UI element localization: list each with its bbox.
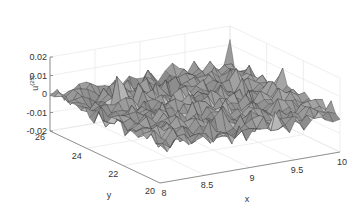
x-tick-label: 8: [161, 188, 166, 198]
surface-figure: -0.02-0.0100.010.0288.599.51020222426 u(…: [0, 0, 359, 212]
z-tick-label: 0: [42, 89, 47, 99]
surface-mesh: [50, 39, 340, 151]
x-tick-label: 10: [337, 157, 347, 167]
y-tick-label: 22: [108, 169, 118, 179]
y-tick-label: 20: [145, 186, 155, 196]
x-tick-label: 8.5: [201, 180, 214, 190]
z-tick-label: -0.01: [26, 108, 47, 118]
surface-plot: -0.02-0.0100.010.0288.599.51020222426 u(…: [0, 0, 359, 212]
z-tick-label: 0.02: [29, 52, 47, 62]
y-axis-label: y: [107, 190, 112, 200]
y-tick-label: 24: [72, 151, 82, 161]
x-axis-label: x: [245, 194, 250, 204]
x-tick-label: 9.5: [291, 165, 304, 175]
x-tick-label: 9: [249, 173, 254, 183]
y-tick-label: 26: [35, 132, 45, 142]
